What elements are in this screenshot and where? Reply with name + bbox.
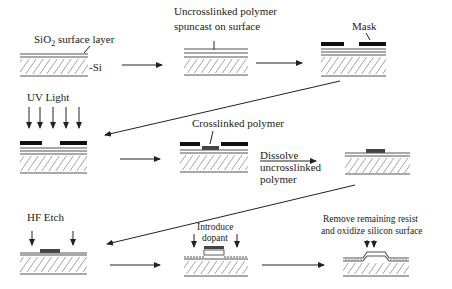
crosslinked-label: Crosslinked polymer bbox=[192, 117, 284, 129]
step2-label-2: spuncast on surface bbox=[174, 20, 260, 32]
dissolve-label-1: Dissolve bbox=[260, 149, 299, 161]
mask-right bbox=[359, 42, 386, 46]
dissolve-label-2: uncrosslinked bbox=[260, 161, 322, 173]
uv-arrows bbox=[29, 107, 79, 128]
step-7-hf-etch: HF Etch bbox=[20, 211, 87, 274]
introduce-label: Introduce bbox=[197, 222, 233, 232]
step-4-uv-exposure: UV Light bbox=[20, 91, 87, 173]
uv-light-label: UV Light bbox=[27, 91, 69, 103]
step-3-mask: Mask bbox=[321, 20, 386, 76]
step-1-substrate: SiO2 surface layer -Si bbox=[20, 33, 115, 76]
si-label: -Si bbox=[89, 61, 102, 73]
mask-left bbox=[321, 42, 344, 46]
step-2-polymer-spuncast: Uncrosslinked polymer spuncast on surfac… bbox=[174, 5, 277, 75]
arrow-6-7 bbox=[107, 185, 355, 244]
mask-label: Mask bbox=[352, 20, 377, 32]
remove-resist-label-1: Remove remaining resist bbox=[323, 214, 418, 224]
dopant-label: dopant bbox=[202, 233, 228, 243]
photolithography-diagram: SiO2 surface layer -Si Uncrosslinked pol… bbox=[0, 0, 452, 289]
remove-resist-label-2: and oxidize silicon surface bbox=[321, 226, 423, 236]
step-8-dopant: Introduce dopant bbox=[184, 222, 248, 276]
sio2-label: SiO2 surface layer bbox=[34, 33, 115, 48]
hf-etch-label: HF Etch bbox=[27, 211, 64, 223]
step-6-dissolve: Dissolve uncrosslinked polymer bbox=[260, 149, 410, 185]
step-9-oxidize: Remove remaining resist and oxidize sili… bbox=[321, 214, 423, 276]
dissolve-label-3: polymer bbox=[260, 173, 297, 185]
step2-label-1: Uncrosslinked polymer bbox=[174, 5, 277, 17]
